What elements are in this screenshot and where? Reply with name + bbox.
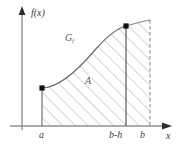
y-axis-label: f(x) [31,8,45,18]
marker-point-b-minus-h [123,23,128,28]
y-axis [19,6,26,130]
marker-point-a [39,85,44,90]
figure-container: f(x) x a b-h b A Gf [0,0,179,152]
tick-label-b-minus-h: b-h [109,130,122,140]
curve-label-graph-of-f: Gf [65,33,74,43]
shaded-region-A [22,0,179,126]
region-label-A: A [85,76,91,86]
tick-label-a: a [39,130,44,140]
tick-label-b: b [140,130,145,140]
x-axis-label: x [166,131,170,141]
curve-label-subscript: f [72,38,74,44]
